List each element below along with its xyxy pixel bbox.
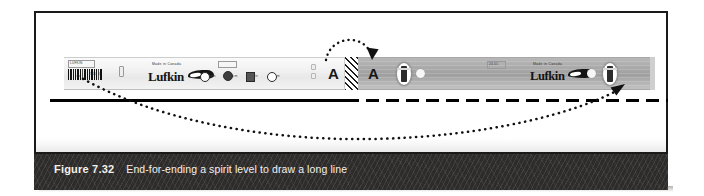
flip-arc-arrowhead [367,48,379,61]
arrow-overlay [0,0,704,196]
figure-root: Figure 7.32End-for-ending a spirit level… [0,0,704,196]
flip-arc-arrow [326,40,372,60]
sweep-curve-arrow [78,76,618,139]
